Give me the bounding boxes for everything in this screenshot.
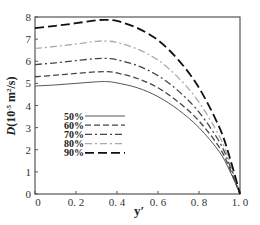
- line-chart: 012345678 00. 20. 40. 60. 81. 0 D(10-5 m…: [0, 0, 260, 225]
- svg-text:D(10-5 m2/s): D(10-5 m2/s): [4, 76, 18, 136]
- y-tick-label: 0: [26, 188, 32, 200]
- y-tick-label: 2: [26, 144, 32, 156]
- legend-label: 90%: [64, 147, 84, 158]
- x-tick-label: 0. 8: [191, 196, 208, 208]
- series-lines: [35, 20, 240, 194]
- series-line-90pct: [35, 20, 240, 194]
- x-axis-title: y′: [134, 203, 144, 218]
- y-tick-label: 3: [26, 122, 32, 134]
- y-axis-title-unit: (10: [4, 111, 18, 127]
- y-axis-title-symbol: D: [4, 127, 18, 137]
- x-tick-label: 1. 0: [232, 196, 249, 208]
- legend: 50%60%70%80%90%: [64, 111, 125, 159]
- x-tick-label: 0. 6: [150, 196, 167, 208]
- y-tick-label: 7: [26, 33, 32, 45]
- x-tick-label: 0. 4: [109, 196, 126, 208]
- y-tick-label: 1: [26, 166, 32, 178]
- y-tick-label: 8: [26, 11, 32, 23]
- y-tick-label: 4: [26, 100, 32, 112]
- x-tick-label: 0: [35, 196, 41, 208]
- y-axis-ticks: 012345678: [26, 11, 39, 200]
- y-tick-label: 6: [26, 55, 32, 67]
- y-tick-label: 5: [26, 77, 32, 89]
- y-axis-title-seconds: /s): [4, 76, 18, 89]
- y-axis-title-meter: m: [4, 92, 18, 105]
- y-axis-title: D(10-5 m2/s): [4, 76, 18, 136]
- x-tick-label: 0. 2: [68, 196, 85, 208]
